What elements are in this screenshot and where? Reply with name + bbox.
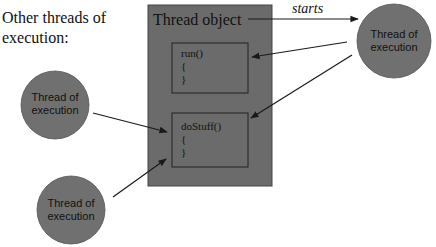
run-method-name: run(): [181, 47, 203, 60]
run-close-brace: }: [181, 73, 186, 85]
dostuff-method-name: doStuff(): [181, 120, 221, 133]
run-open-brace: {: [181, 60, 186, 72]
other-thread-1-node: Thread of execution: [21, 71, 89, 139]
main-thread-label-1: Thread of: [370, 28, 418, 40]
other-thread-1-label-1: Thread of: [31, 91, 79, 103]
caption-line-2: execution:: [2, 29, 69, 46]
thread-diagram: Other threads of execution: Thread objec…: [0, 0, 436, 247]
other-thread-2-node: Thread of execution: [37, 176, 105, 244]
main-thread-label-2: execution: [370, 41, 417, 53]
other-thread-2-label-1: Thread of: [47, 197, 95, 209]
dostuff-open-brace: {: [181, 133, 186, 145]
dostuff-close-brace: }: [181, 146, 186, 158]
other-thread-2-label-2: execution: [47, 210, 94, 222]
other-thread-1-label-2: execution: [31, 104, 78, 116]
main-thread-node: Thread of execution: [357, 4, 431, 78]
starts-label: starts: [292, 1, 324, 16]
caption-line-1: Other threads of: [2, 9, 107, 26]
thread-object-box: [148, 5, 272, 186]
thread-object-title: Thread object: [153, 11, 242, 29]
